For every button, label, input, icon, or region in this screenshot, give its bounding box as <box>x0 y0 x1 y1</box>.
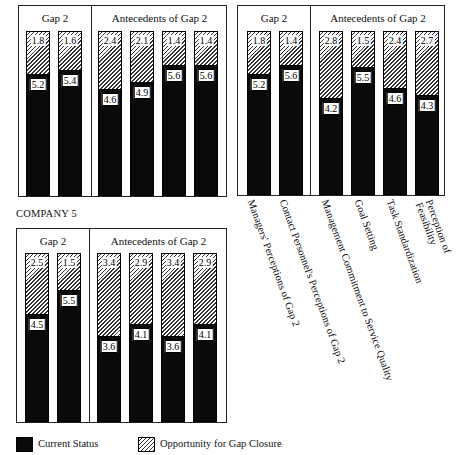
opportunity-value: 2.4 <box>388 35 403 46</box>
opportunity-segment: 2.9 <box>194 254 216 325</box>
opportunity-segment: 1.8 <box>248 32 270 75</box>
group-divider <box>91 6 92 196</box>
stacked-bar: 3.43.6 <box>161 253 185 422</box>
opportunity-value: 1.4 <box>199 35 214 46</box>
current-value: 4.6 <box>102 93 119 106</box>
opportunity-value: 1.4 <box>167 35 182 46</box>
opportunity-segment: 3.4 <box>98 254 120 337</box>
opportunity-value: 1.8 <box>31 35 46 46</box>
opportunity-value: 2.8 <box>324 35 339 46</box>
opportunity-segment: 2.4 <box>99 32 121 90</box>
stacked-bar: 2.84.2 <box>319 31 343 195</box>
opportunity-segment: 2.4 <box>384 32 406 89</box>
opportunity-value: 1.5 <box>356 35 371 46</box>
current-value: 5.4 <box>62 74 79 87</box>
current-value: 5.6 <box>198 69 215 82</box>
current-value: 4.1 <box>133 328 150 341</box>
current-value: 5.6 <box>166 69 183 82</box>
opportunity-segment: 2.8 <box>320 32 342 99</box>
group-divider <box>89 229 90 422</box>
stacked-bar: 1.45.6 <box>279 31 303 195</box>
current-value: 4.9 <box>134 86 151 99</box>
opportunity-value: 1.6 <box>63 35 78 46</box>
category-label: Goal Setting <box>353 198 381 251</box>
chart-panel-2: Gap 2 Antecedents of Gap 2 1.85.21.45.62… <box>237 5 445 196</box>
stacked-bar: 1.55.5 <box>351 31 375 195</box>
current-value: 5.5 <box>355 71 372 84</box>
current-value: 5.2 <box>30 78 47 91</box>
group-header-gap2: Gap 2 <box>19 12 91 24</box>
legend-label-opportunity: Opportunity for Gap Closure <box>160 438 282 449</box>
legend-swatch-current <box>16 437 33 452</box>
current-value: 5.6 <box>283 69 300 82</box>
stacked-bar: 2.74.3 <box>415 31 439 195</box>
current-value: 5.5 <box>61 294 78 307</box>
stacked-bar: 1.45.6 <box>194 31 218 196</box>
opportunity-value: 3.4 <box>102 257 117 268</box>
opportunity-value: 1.4 <box>284 35 299 46</box>
opportunity-value: 2.5 <box>30 257 45 268</box>
company-title: COMPANY 5 <box>16 208 77 219</box>
stacked-bar: 1.45.6 <box>162 31 186 196</box>
opportunity-value: 2.4 <box>103 35 118 46</box>
stacked-bar: 2.14.9 <box>130 31 154 196</box>
opportunity-value: 1.5 <box>62 257 77 268</box>
current-value: 4.5 <box>29 318 46 331</box>
opportunity-value: 2.7 <box>420 35 435 46</box>
current-value: 3.6 <box>101 340 118 353</box>
chart-panel-3: Gap 2 Antecedents of Gap 2 2.54.51.55.53… <box>16 228 227 423</box>
legend-label-current: Current Status <box>38 438 98 449</box>
stacked-bar: 2.94.1 <box>193 253 217 422</box>
current-value: 4.2 <box>323 102 340 115</box>
current-value: 3.6 <box>165 340 182 353</box>
stacked-bar: 1.85.2 <box>26 31 50 196</box>
group-header-antecedents: Antecedents of Gap 2 <box>310 12 446 24</box>
opportunity-segment: 2.1 <box>131 32 153 83</box>
chart-panel-1: Gap 2 Antecedents of Gap 2 1.85.21.65.42… <box>18 5 227 197</box>
stacked-bar: 1.85.2 <box>247 31 271 195</box>
opportunity-segment: 1.5 <box>58 254 80 291</box>
opportunity-segment: 2.5 <box>26 254 48 315</box>
opportunity-segment: 2.7 <box>416 32 438 96</box>
group-divider <box>310 6 311 195</box>
stacked-bar: 2.54.5 <box>25 253 49 422</box>
current-value: 4.3 <box>419 99 436 112</box>
stacked-bar: 2.94.1 <box>129 253 153 422</box>
opportunity-segment: 3.4 <box>162 254 184 337</box>
current-value: 4.1 <box>197 328 214 341</box>
stacked-bar: 3.43.6 <box>97 253 121 422</box>
opportunity-segment: 1.6 <box>59 32 81 71</box>
opportunity-segment: 1.8 <box>27 32 49 75</box>
opportunity-value: 2.1 <box>135 35 150 46</box>
opportunity-segment: 1.5 <box>352 32 374 68</box>
stacked-bar: 1.55.5 <box>57 253 81 422</box>
current-value: 4.6 <box>387 92 404 105</box>
opportunity-value: 1.8 <box>252 35 267 46</box>
current-value: 5.2 <box>251 78 268 91</box>
stacked-bar: 2.44.6 <box>98 31 122 196</box>
opportunity-value: 3.4 <box>166 257 181 268</box>
stacked-bar: 1.65.4 <box>58 31 82 196</box>
group-header-antecedents: Antecedents of Gap 2 <box>89 235 228 247</box>
opportunity-segment: 1.4 <box>163 32 185 66</box>
opportunity-value: 2.9 <box>134 257 149 268</box>
group-header-antecedents: Antecedents of Gap 2 <box>91 12 228 24</box>
opportunity-segment: 1.4 <box>280 32 302 66</box>
group-header-gap2: Gap 2 <box>17 235 89 247</box>
opportunity-segment: 1.4 <box>195 32 217 66</box>
stacked-bar: 2.44.6 <box>383 31 407 195</box>
group-header-gap2: Gap 2 <box>238 12 310 24</box>
category-label: Management Commitment to Service Quality <box>320 198 396 382</box>
opportunity-value: 2.9 <box>198 257 213 268</box>
opportunity-segment: 2.9 <box>130 254 152 325</box>
legend-swatch-opportunity <box>138 437 155 452</box>
